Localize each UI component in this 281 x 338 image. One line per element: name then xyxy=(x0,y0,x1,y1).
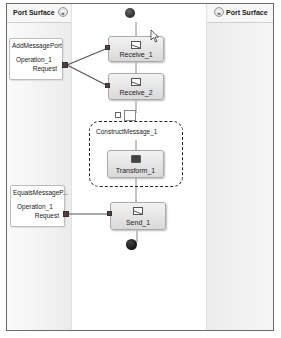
start-shape[interactable] xyxy=(125,8,135,18)
port-operation: Operation_1 xyxy=(16,56,52,63)
end-shape[interactable] xyxy=(126,239,137,250)
port-name: AddMessagePort xyxy=(12,42,62,49)
envelope-icon xyxy=(131,41,141,49)
shape-label: Send_1 xyxy=(111,219,165,226)
port-name: EqualsMessageP... xyxy=(13,189,68,196)
port-equals-message[interactable]: EqualsMessageP... Operation_1 Request xyxy=(10,185,65,227)
receive-1-port-connector[interactable] xyxy=(105,45,110,50)
shape-label: Transform_1 xyxy=(108,167,163,174)
envelope-icon xyxy=(131,78,141,86)
shape-label: Receive_2 xyxy=(109,89,163,96)
transform-icon xyxy=(131,155,141,163)
shape-label: Receive_1 xyxy=(109,51,163,58)
construct-message-label: ConstructMessage_1 xyxy=(96,128,157,135)
shape-transform-1[interactable]: Transform_1 xyxy=(107,150,164,178)
construct-message-icon xyxy=(124,110,136,121)
send-1-port-connector[interactable] xyxy=(107,211,112,216)
port-connector-add-request[interactable] xyxy=(62,62,68,68)
shape-send-1[interactable]: Send_1 xyxy=(110,202,166,230)
port-connector-equals-request[interactable] xyxy=(63,211,69,217)
port-add-message[interactable]: AddMessagePort Operation_1 Request xyxy=(9,38,63,80)
collapse-construct-toggle[interactable] xyxy=(115,112,121,118)
mouse-cursor-icon xyxy=(150,29,160,43)
envelope-icon xyxy=(133,207,143,215)
port-operation: Operation_1 xyxy=(17,203,53,210)
port-message: Request xyxy=(35,212,59,219)
shape-receive-2[interactable]: Receive_2 xyxy=(108,73,164,100)
receive-2-port-connector[interactable] xyxy=(105,83,110,88)
port-message: Request xyxy=(33,65,57,72)
